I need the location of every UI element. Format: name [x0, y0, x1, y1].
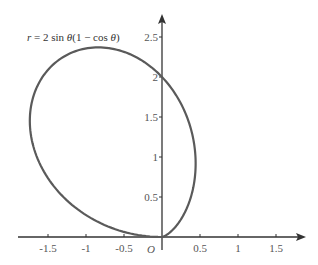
title-mid: (1 − cos	[72, 31, 110, 44]
axis-ticks: -1.5-1-0.50.511.50.511.522.5	[39, 31, 283, 254]
y-tick-label: 1	[153, 151, 159, 163]
axes	[18, 14, 306, 250]
y-tick-label: 2.5	[144, 31, 158, 43]
x-tick-label: -1	[81, 242, 90, 254]
origin-label: O	[147, 243, 155, 255]
x-tick-label: 1	[235, 242, 241, 254]
title-close: )	[116, 31, 120, 44]
title-eq: = 2 sin	[31, 31, 67, 43]
y-tick-label: 0.5	[144, 191, 158, 203]
x-tick-label: -1.5	[39, 242, 57, 254]
x-tick-label: 1.5	[269, 242, 283, 254]
polar-curve	[30, 47, 196, 237]
y-tick-label: 1.5	[144, 111, 158, 123]
x-tick-label: -0.5	[115, 242, 133, 254]
polar-curve-chart: -1.5-1-0.50.511.50.511.522.5 r = 2 sin θ…	[0, 0, 318, 265]
chart-title: r = 2 sin θ(1 − cos θ)	[27, 31, 120, 44]
x-tick-label: 0.5	[193, 242, 207, 254]
